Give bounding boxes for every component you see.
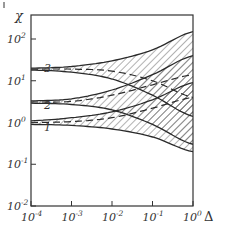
x-tick-label: 10-2: [102, 209, 124, 224]
y-tick-label: 10-1: [7, 156, 28, 171]
x-axis-label: Δ: [204, 209, 213, 224]
plot-area: [31, 32, 193, 152]
curve-label-3: 3: [44, 62, 51, 75]
x-tick-label: 100: [183, 209, 202, 224]
curve-label-1: 1: [44, 121, 51, 134]
chart: 10210110010-110-210-410-310-210-1100χΔ32…: [0, 0, 225, 233]
y-axis-label: χ: [14, 8, 24, 23]
x-tick-label: 10-4: [21, 209, 43, 224]
y-tick-label: 102: [7, 31, 26, 46]
y-tick-label: 100: [7, 115, 26, 130]
x-tick-label: 10-1: [143, 209, 164, 224]
x-tick-label: 10-3: [62, 209, 84, 224]
y-tick-label: 101: [7, 73, 26, 88]
curve-label-2: 2: [43, 99, 51, 112]
